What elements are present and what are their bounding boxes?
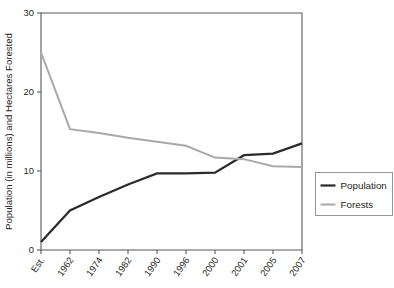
chart-canvas: 0102030 Est.1962197419821990199620002001… — [0, 0, 394, 288]
y-axis-title: Population (in millions) and Hectares Fo… — [3, 33, 14, 230]
legend-label-forests: Forests — [341, 199, 374, 210]
line-chart: 0102030 Est.1962197419821990199620002001… — [0, 0, 394, 288]
series-layer — [41, 53, 302, 243]
x-tick-label: Est. — [28, 255, 46, 275]
series-line-forests — [41, 53, 302, 168]
series-line-population — [41, 143, 302, 242]
x-tick-label: 2007 — [287, 255, 308, 278]
y-tick-label: 20 — [24, 86, 34, 97]
chart-legend: PopulationForests — [316, 173, 393, 216]
x-tick-label: 1990 — [142, 255, 163, 278]
y-tick-label: 30 — [24, 7, 34, 18]
legend-label-population: Population — [341, 180, 387, 191]
x-tick-label: 1996 — [171, 255, 192, 278]
x-tick-label: 1982 — [113, 255, 134, 278]
y-tick-label: 10 — [24, 165, 34, 176]
x-tick-label: 2000 — [200, 255, 221, 278]
x-tick-label: 1962 — [55, 255, 76, 278]
x-tick-label: 2001 — [229, 255, 250, 278]
x-axis-ticks: Est.196219741982199019962000200120052007 — [28, 250, 307, 278]
y-tick-label: 0 — [29, 244, 34, 255]
x-tick-label: 1974 — [84, 255, 105, 278]
y-axis-title-text: Population (in millions) and Hectares Fo… — [3, 33, 14, 230]
x-tick-label: 2005 — [258, 255, 279, 278]
y-axis-ticks: 0102030 — [24, 7, 41, 255]
